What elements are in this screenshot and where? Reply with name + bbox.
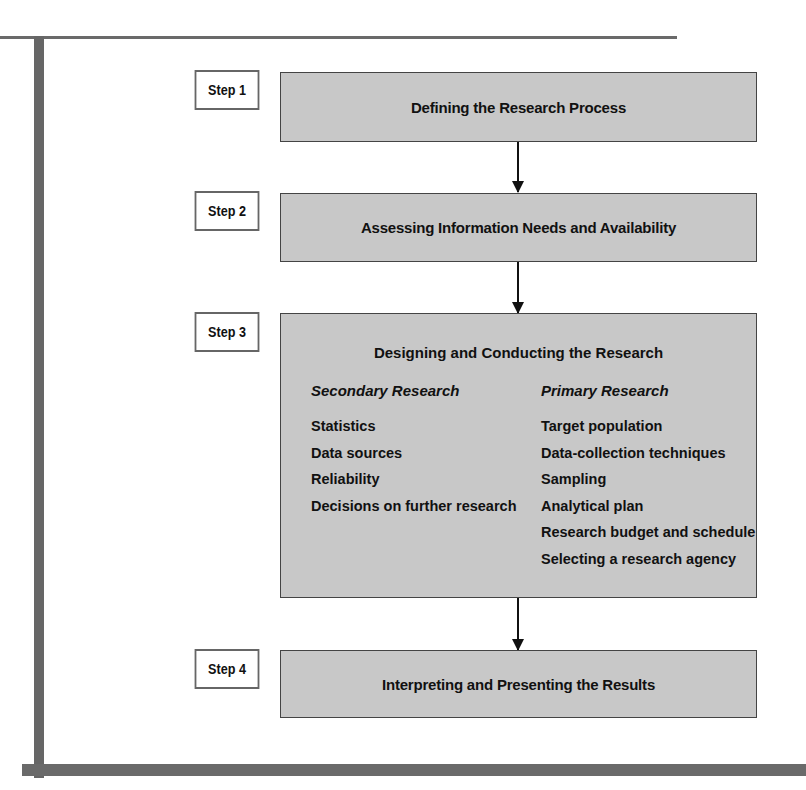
step-1-box: Defining the Research Process xyxy=(280,72,757,142)
list-item: Selecting a research agency xyxy=(541,546,755,573)
step-3-title: Designing and Conducting the Research xyxy=(281,344,756,361)
step-3-label: Step 3 xyxy=(195,312,260,352)
top-rule xyxy=(0,36,677,39)
primary-research-heading: Primary Research xyxy=(541,382,755,399)
list-item: Analytical plan xyxy=(541,493,755,520)
step-4-label: Step 4 xyxy=(195,649,260,689)
list-item: Sampling xyxy=(541,466,755,493)
list-item: Reliability xyxy=(311,466,517,493)
step-4-box: Interpreting and Presenting the Results xyxy=(280,650,757,718)
secondary-research-column: Secondary Research Statistics Data sourc… xyxy=(311,382,517,519)
list-item: Data-collection techniques xyxy=(541,440,755,467)
bottom-frame-bar xyxy=(22,764,806,776)
primary-research-column: Primary Research Target population Data-… xyxy=(541,382,755,572)
step-1-title: Defining the Research Process xyxy=(411,99,626,116)
step-1-label: Step 1 xyxy=(195,70,260,110)
step-2-title: Assessing Information Needs and Availabi… xyxy=(361,219,676,236)
list-item: Research budget and schedule xyxy=(541,519,755,546)
list-item: Data sources xyxy=(311,440,517,467)
step-4-title: Interpreting and Presenting the Results xyxy=(382,676,655,693)
list-item: Target population xyxy=(541,413,755,440)
left-frame-bar xyxy=(34,36,44,778)
step-2-box: Assessing Information Needs and Availabi… xyxy=(280,193,757,262)
arrow-down-icon xyxy=(517,598,519,650)
list-item: Statistics xyxy=(311,413,517,440)
arrow-down-icon xyxy=(517,262,519,313)
step-3-box: Designing and Conducting the Research Se… xyxy=(280,313,757,598)
list-item: Decisions on further research xyxy=(311,493,517,520)
step-2-label: Step 2 xyxy=(195,191,260,231)
arrow-down-icon xyxy=(517,142,519,192)
secondary-research-heading: Secondary Research xyxy=(311,382,517,399)
